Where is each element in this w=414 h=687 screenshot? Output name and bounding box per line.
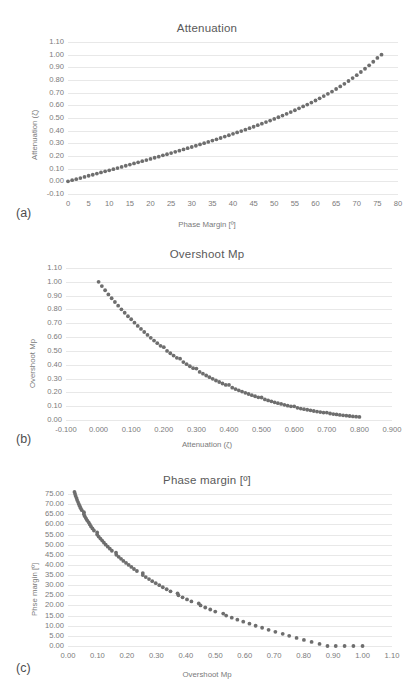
data-point (283, 403, 287, 407)
data-point (281, 632, 285, 636)
chart-title-c: Phase margin [º] (0, 474, 414, 486)
data-point (224, 614, 228, 618)
data-point (210, 139, 214, 143)
y-tick-label: 0.20 (22, 388, 62, 396)
data-point (165, 349, 169, 353)
y-tick-label: -0.10 (24, 190, 64, 198)
data-point (338, 85, 342, 89)
gridline (68, 194, 398, 195)
data-point (106, 292, 110, 296)
data-point (252, 125, 256, 129)
series-c (68, 494, 392, 646)
data-point (213, 610, 217, 614)
data-point (185, 362, 189, 366)
data-point (181, 360, 185, 364)
data-point (309, 101, 313, 105)
data-point (157, 583, 161, 587)
data-point (269, 399, 273, 403)
data-point (338, 413, 342, 417)
data-point (235, 131, 239, 135)
data-point (230, 386, 234, 390)
data-point (237, 388, 241, 392)
series-a (68, 42, 398, 194)
data-point (142, 330, 146, 334)
data-point (136, 160, 140, 164)
data-point (359, 70, 363, 74)
x-tick-label: 1.10 (372, 652, 412, 660)
data-point (147, 577, 151, 581)
data-point (223, 135, 227, 139)
data-point (250, 393, 254, 397)
data-point (126, 314, 130, 318)
data-point (144, 575, 148, 579)
data-point (132, 162, 136, 166)
data-point (302, 638, 306, 642)
data-point (172, 354, 176, 358)
data-point (206, 140, 210, 144)
data-point (273, 400, 277, 404)
data-point (234, 387, 238, 391)
data-point (254, 624, 258, 628)
y-axis-title-a: Attenuation (ζ) (30, 110, 39, 160)
data-point (351, 76, 355, 80)
data-point (248, 126, 252, 130)
data-point (74, 177, 78, 181)
data-point (281, 114, 285, 118)
data-point (87, 174, 91, 178)
data-point (116, 166, 120, 170)
data-point (371, 60, 375, 64)
data-point (198, 143, 202, 147)
data-point (99, 171, 103, 175)
data-point (279, 402, 283, 406)
data-point (124, 164, 128, 168)
data-point (103, 288, 107, 292)
data-point (318, 642, 322, 646)
data-point (129, 317, 133, 321)
data-point (113, 300, 117, 304)
data-point (331, 412, 335, 416)
data-point (208, 375, 212, 379)
data-point (190, 600, 194, 604)
data-point (149, 336, 153, 340)
data-point (191, 366, 195, 370)
gridline (66, 420, 392, 421)
data-point (314, 99, 318, 103)
data-point (135, 569, 139, 573)
data-point (325, 411, 329, 415)
data-point (347, 79, 351, 83)
data-point (153, 156, 157, 160)
data-point (272, 117, 276, 121)
data-point (202, 141, 206, 145)
y-tick-label: 1.00 (22, 278, 62, 286)
data-point (198, 370, 202, 374)
data-point (358, 415, 362, 419)
x-tick-label: 80 (378, 200, 414, 208)
data-point (292, 404, 296, 408)
data-point (264, 120, 268, 124)
data-point (293, 108, 297, 112)
y-axis-title-b: Overshoot Mp (28, 339, 37, 388)
data-point (240, 390, 244, 394)
data-point (253, 394, 257, 398)
data-point (208, 608, 212, 612)
data-point (235, 618, 239, 622)
data-point (182, 148, 186, 152)
data-point (204, 374, 208, 378)
data-point (310, 640, 314, 644)
data-point (227, 383, 231, 387)
data-point (161, 153, 165, 157)
y-tick-label: 1.10 (22, 264, 62, 272)
data-point (285, 112, 289, 116)
data-point (110, 296, 114, 300)
figure-attenuation: Attenuation (a) 1.101.000.900.800.700.60… (0, 0, 414, 230)
data-point (243, 391, 247, 395)
y-tick-label: 5.00 (24, 632, 64, 640)
data-point (354, 415, 358, 419)
data-point (295, 636, 299, 640)
data-point (301, 105, 305, 109)
data-point (375, 56, 379, 60)
data-point (185, 597, 189, 601)
data-point (219, 136, 223, 140)
data-point (286, 404, 290, 408)
data-point (247, 392, 251, 396)
